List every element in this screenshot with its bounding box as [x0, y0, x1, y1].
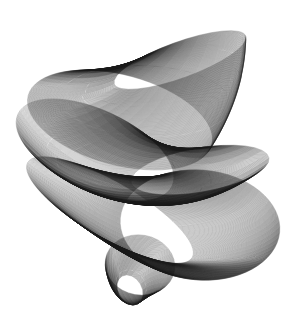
- generative-line-art: [0, 0, 290, 332]
